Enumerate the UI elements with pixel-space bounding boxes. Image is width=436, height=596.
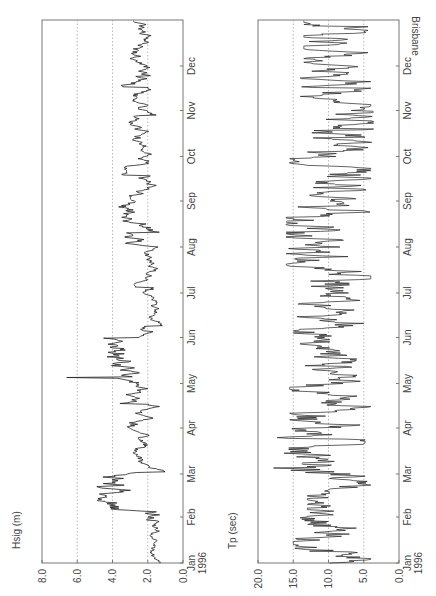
month-label: Mar xyxy=(402,465,413,483)
month-label: Sep xyxy=(402,192,413,210)
y-tick-label: 8.0 xyxy=(37,569,48,583)
month-label: May xyxy=(186,374,197,393)
hsig-series-line xyxy=(67,21,165,563)
y-tick-label: 15.0 xyxy=(288,569,299,589)
month-label: Oct xyxy=(402,148,413,164)
month-label: Apr xyxy=(402,420,413,436)
axis-label: Hsig (m) xyxy=(11,511,22,549)
hsig-panel: 0.02.04.06.08.0Hsig (m)Jan1996FebMarAprM… xyxy=(11,20,208,583)
month-label: Nov xyxy=(402,102,413,120)
month-label: Dec xyxy=(186,57,197,75)
month-label: Aug xyxy=(402,238,413,256)
month-label: Jan xyxy=(402,555,413,571)
month-label: 1996 xyxy=(197,551,208,574)
month-label: Oct xyxy=(186,148,197,164)
month-label: Jul xyxy=(186,287,197,300)
month-label: Dec xyxy=(402,57,413,75)
y-tick-label: 20.0 xyxy=(253,569,264,589)
y-tick-label: 4.0 xyxy=(107,569,118,583)
month-label: Nov xyxy=(186,102,197,120)
y-tick-label: 10.0 xyxy=(323,569,334,589)
month-label: Sep xyxy=(186,192,197,210)
month-label: Feb xyxy=(186,508,197,526)
month-label: Aug xyxy=(186,238,197,256)
month-label: Mar xyxy=(186,465,197,483)
chart-canvas: Brisbane0.02.04.06.08.0Hsig (m)Jan1996Fe… xyxy=(0,0,436,596)
month-label: Feb xyxy=(402,508,413,526)
tp-panel: 0.05.010.015.020.0Tp (sec)Jan1996FebMarA… xyxy=(227,20,424,588)
month-label: Jul xyxy=(402,287,413,300)
month-label: Apr xyxy=(186,420,197,436)
y-tick-label: 5.0 xyxy=(358,569,369,583)
axis-label: Tp (sec) xyxy=(227,512,238,549)
site-label: Brisbane xyxy=(410,16,421,56)
tp-series-line xyxy=(274,21,374,563)
month-label: Jan xyxy=(186,555,197,571)
y-tick-label: 2.0 xyxy=(142,569,153,583)
month-label: 1996 xyxy=(413,551,424,574)
y-tick-label: 6.0 xyxy=(72,569,83,583)
month-label: Jun xyxy=(186,329,197,345)
month-label: Jun xyxy=(402,329,413,345)
month-label: May xyxy=(402,374,413,393)
